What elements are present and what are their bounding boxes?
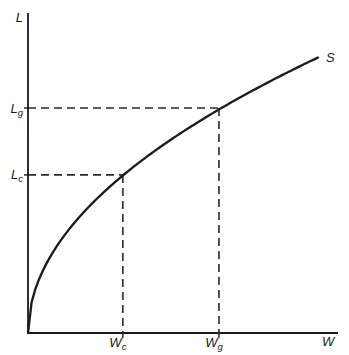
- curve-label: S: [326, 50, 335, 65]
- label-wc-sub: c: [122, 341, 127, 352]
- supply-curve-canvas: L W S Lg Lc Wc Wg: [0, 0, 349, 355]
- label-lc: Lc: [11, 167, 23, 184]
- label-lc-sub: c: [18, 173, 23, 184]
- label-wg-sub: g: [217, 341, 223, 352]
- label-lg: Lg: [10, 101, 23, 118]
- label-lg-sub: g: [18, 107, 24, 118]
- supply-curve-figure: L W S Lg Lc Wc Wg: [0, 0, 349, 355]
- label-lc-main: L: [11, 167, 18, 182]
- supply-curve: [28, 58, 318, 333]
- label-wg: Wg: [205, 335, 223, 352]
- label-wc: Wc: [109, 335, 126, 352]
- x-axis-label: W: [322, 334, 336, 349]
- label-lg-main: L: [10, 101, 17, 116]
- y-axis-label: L: [16, 10, 23, 25]
